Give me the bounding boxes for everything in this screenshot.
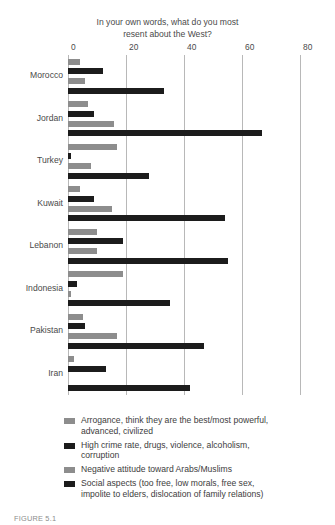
legend-label: Arrogance, think they are the best/most … [81, 415, 268, 436]
bar [68, 111, 94, 117]
bar [68, 144, 117, 150]
chart-title: In your own words, what do you most rese… [0, 16, 335, 40]
bar [68, 323, 85, 329]
bar-group [68, 356, 300, 391]
bar [68, 130, 262, 136]
legend-swatch-icon [64, 443, 75, 449]
legend-label-line: Negative attitude toward Arabs/Muslims [81, 464, 232, 475]
bar [68, 238, 123, 244]
legend-item[interactable]: High crime rate, drugs, violence, alcoho… [64, 440, 332, 461]
bar [68, 215, 225, 221]
bar [68, 88, 164, 94]
legend-swatch-icon [64, 418, 75, 424]
x-tick-label-80: 80 [303, 42, 312, 52]
bar [68, 121, 114, 127]
category-label-pakistan: Pakistan [30, 325, 63, 335]
legend-item[interactable]: Arrogance, think they are the best/most … [64, 415, 332, 436]
legend-label-line: corruption [81, 450, 250, 461]
category-label-turkey: Turkey [37, 155, 63, 165]
bar [68, 385, 190, 391]
bar-group [68, 101, 300, 136]
bar [68, 196, 94, 202]
bar [68, 101, 88, 107]
category-label-jordan: Jordan [37, 113, 63, 123]
bar [68, 78, 85, 84]
legend-item[interactable]: Negative attitude toward Arabs/Muslims [64, 464, 332, 475]
bar [68, 343, 204, 349]
legend-label-line: High crime rate, drugs, violence, alcoho… [81, 440, 250, 451]
bar [68, 173, 149, 179]
category-label-kuwait: Kuwait [37, 198, 63, 208]
bar [68, 258, 228, 264]
legend-label: Negative attitude toward Arabs/Muslims [81, 464, 232, 475]
x-tick-label-40: 40 [187, 42, 196, 52]
bar [68, 333, 117, 339]
bar-group [68, 271, 300, 306]
bar-group [68, 186, 300, 221]
bar [68, 186, 80, 192]
bar [68, 248, 97, 254]
bar-group [68, 59, 300, 94]
bar [68, 68, 103, 74]
bar [68, 59, 80, 65]
legend-label: High crime rate, drugs, violence, alcoho… [81, 440, 250, 461]
chart-title-line-2: resent about the West? [0, 28, 335, 40]
legend-label: Social aspects (too free, low morals, fr… [81, 478, 263, 499]
x-axis-tick-labels: 020406080 [68, 0, 308, 14]
category-label-indonesia: Indonesia [26, 283, 63, 293]
bar-group [68, 229, 300, 264]
bar [68, 229, 97, 235]
category-label-lebanon: Lebanon [30, 240, 63, 250]
legend-label-line: Social aspects (too free, low morals, fr… [81, 478, 263, 489]
bar [68, 153, 71, 159]
bar [68, 366, 106, 372]
category-label-iran: Iran [48, 368, 63, 378]
chart-legend: Arrogance, think they are the best/most … [64, 415, 332, 503]
bar [68, 281, 77, 287]
figure-caption: FIGURE 5.1 [14, 514, 56, 523]
chart-title-line-1: In your own words, what do you most [0, 16, 335, 28]
y-axis-category-labels: MoroccoJordanTurkeyKuwaitLebanonIndonesi… [0, 55, 63, 395]
legend-swatch-icon [64, 481, 75, 487]
bar-group [68, 144, 300, 179]
category-label-morocco: Morocco [30, 70, 63, 80]
legend-item[interactable]: Social aspects (too free, low morals, fr… [64, 478, 332, 499]
legend-label-line: Arrogance, think they are the best/most … [81, 415, 268, 426]
bar [68, 300, 170, 306]
bar [68, 271, 123, 277]
x-tick-label-0: 0 [71, 42, 76, 52]
legend-swatch-icon [64, 467, 75, 473]
legend-label-line: impolite to elders, dislocation of famil… [81, 489, 263, 500]
x-tick-label-60: 60 [245, 42, 254, 52]
x-tick-label-20: 20 [129, 42, 138, 52]
legend-label-line: advanced, civilized [81, 426, 268, 437]
gridline-80 [300, 55, 301, 395]
bar [68, 314, 83, 320]
bar [68, 206, 112, 212]
plot-area [68, 55, 300, 395]
bar [68, 163, 91, 169]
bar [68, 291, 71, 297]
bar [68, 356, 74, 362]
bar-group [68, 314, 300, 349]
